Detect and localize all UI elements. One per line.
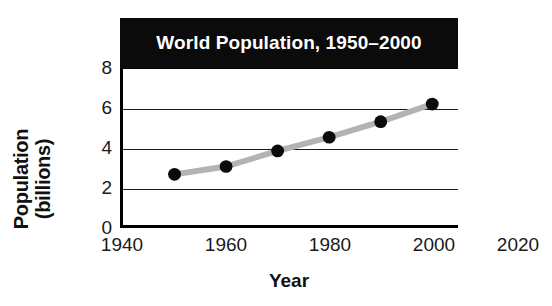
chart-figure: Population (billions) 8 6 4 2 0 World Po… — [0, 0, 552, 306]
data-point — [323, 131, 336, 144]
plot-area — [120, 68, 458, 228]
x-tick-label-2000: 2000 — [394, 234, 474, 256]
data-point — [271, 145, 284, 158]
chart-title-banner: World Population, 1950–2000 — [120, 18, 458, 68]
data-series-layer — [123, 69, 458, 225]
y-tick-label-6: 6 — [78, 97, 112, 119]
y-axis-title-line-2: (billions) — [33, 139, 55, 219]
y-tick-label-2: 2 — [78, 177, 112, 199]
x-tick-label-1960: 1960 — [186, 234, 266, 256]
x-tick-label-1940: 1940 — [82, 234, 162, 256]
data-point — [220, 160, 233, 173]
data-point — [168, 168, 181, 181]
x-axis-title: Year — [120, 270, 458, 292]
y-axis-title-line-1: Population — [11, 129, 33, 229]
y-tick-label-8: 8 — [78, 57, 112, 79]
chart-title: World Population, 1950–2000 — [156, 32, 421, 54]
x-axis-tick-labels: 1940 1960 1980 2000 2020 — [0, 234, 552, 264]
data-point — [374, 115, 387, 128]
x-tick-label-1980: 1980 — [290, 234, 370, 256]
y-tick-label-4: 4 — [78, 137, 112, 159]
x-tick-label-2020: 2020 — [478, 234, 552, 256]
series-line — [175, 104, 433, 174]
data-point — [426, 98, 439, 111]
